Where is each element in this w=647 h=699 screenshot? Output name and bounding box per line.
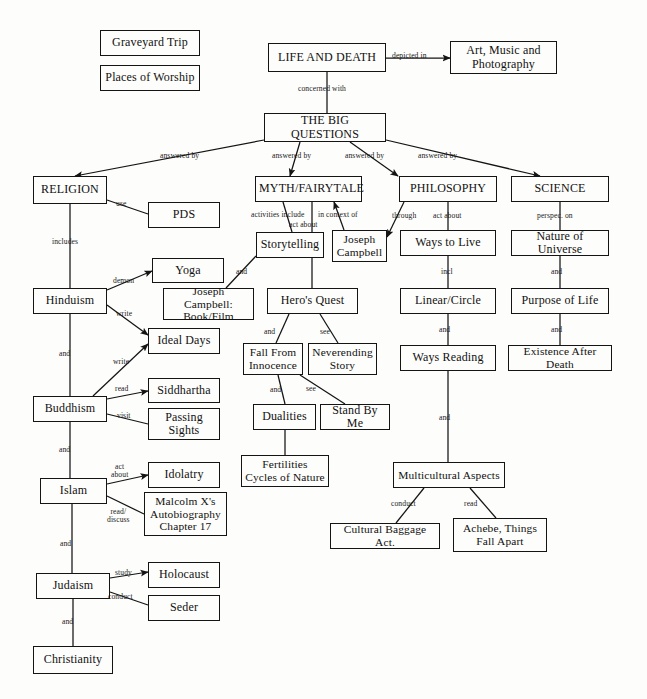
concept-node-label: Hinduism: [37, 294, 103, 307]
concept-node-multicultural_aspects[interactable]: Multicultural Aspects: [393, 462, 505, 488]
concept-node-label: Achebe, ThingsFall Apart: [457, 522, 543, 548]
concept-map-canvas: Graveyard TripPlaces of WorshipLIFE AND …: [0, 0, 647, 699]
concept-node-seder[interactable]: Seder: [148, 595, 220, 621]
edge-label-e25: through: [392, 212, 416, 220]
edge-label-e17: read/discuss: [107, 508, 130, 524]
concept-node-myth_fairytale[interactable]: MYTH/FAIRYTALE: [255, 176, 362, 202]
edge-label-e9: demon: [113, 277, 134, 285]
concept-node-label: Siddhartha: [152, 384, 216, 397]
concept-node-label: Fall FromInnocence: [247, 346, 299, 372]
concept-node-pds[interactable]: PDS: [148, 202, 220, 228]
concept-node-label: Joseph Campbell:Book/Film: [167, 285, 250, 323]
concept-node-label: Ways Reading: [404, 351, 492, 364]
concept-node-label: NeverendingStory: [312, 346, 373, 372]
concept-node-fall_from_innocence[interactable]: Fall FromInnocence: [243, 343, 303, 375]
concept-node-label: Nature of Universe: [515, 230, 605, 257]
concept-node-philosophy[interactable]: PHILOSOPHY: [399, 176, 497, 202]
edge-label-e20: conduct: [108, 593, 133, 601]
concept-node-label: Dualities: [257, 410, 312, 423]
concept-node-label: Purpose of Life: [515, 294, 605, 307]
concept-node-siddhartha[interactable]: Siddhartha: [148, 378, 220, 403]
concept-node-label: Places of Worship: [104, 71, 196, 84]
edge-label-e36: perspec. on: [537, 212, 573, 220]
concept-node-islam[interactable]: Islam: [40, 478, 107, 504]
edge-label-e10: write: [116, 310, 132, 318]
concept-node-linear_circle[interactable]: Linear/Circle: [400, 288, 496, 314]
concept-node-label: Art, Music andPhotography: [454, 44, 553, 71]
concept-node-label: PassingSights: [152, 411, 216, 438]
edge-label-e32: act about: [433, 212, 462, 220]
concept-node-life_and_death[interactable]: LIFE AND DEATH: [268, 43, 386, 72]
concept-node-label: SCIENCE: [515, 182, 605, 195]
concept-node-neverending_story[interactable]: NeverendingStory: [308, 343, 377, 375]
edge-label-e1: depicted in: [392, 52, 427, 60]
edge-label-e29: and: [270, 386, 281, 394]
concept-node-label: Existence After Death: [512, 345, 608, 371]
concept-node-places_worship[interactable]: Places of Worship: [100, 65, 200, 91]
concept-node-dualities[interactable]: Dualities: [253, 404, 316, 430]
concept-edge-e6: [386, 140, 540, 176]
edge-label-e18: and: [60, 540, 71, 548]
concept-node-ways_to_live[interactable]: Ways to Live: [400, 230, 496, 256]
concept-node-label: PHILOSOPHY: [403, 182, 493, 195]
concept-node-label: FertilitiesCycles of Nature: [245, 458, 325, 484]
concept-node-label: Judaism: [40, 579, 106, 592]
concept-node-stand_by_me[interactable]: Stand By Me: [320, 404, 390, 430]
concept-node-christianity[interactable]: Christianity: [33, 646, 113, 674]
edge-label-e26: and: [236, 268, 247, 276]
concept-node-label: Buddhism: [37, 402, 103, 415]
concept-node-label: Linear/Circle: [404, 294, 492, 307]
concept-node-art_music_photography[interactable]: Art, Music andPhotography: [450, 41, 557, 74]
edge-label-e34: and: [439, 326, 450, 334]
edge-label-e13: read: [115, 385, 128, 393]
concept-node-hinduism[interactable]: Hinduism: [33, 288, 107, 314]
edge-label-e35: and: [439, 414, 450, 422]
concept-node-label: PDS: [152, 208, 216, 221]
concept-node-buddhism[interactable]: Buddhism: [33, 396, 107, 422]
concept-node-label: Multicultural Aspects: [397, 469, 501, 482]
concept-node-existence_after_death[interactable]: Existence After Death: [508, 345, 612, 371]
concept-node-label: Storytelling: [260, 238, 320, 251]
concept-node-joseph_campbell[interactable]: JosephCampbell: [332, 230, 387, 262]
edge-label-e30: see: [306, 385, 316, 393]
concept-node-ideal_days[interactable]: Ideal Days: [148, 328, 220, 354]
concept-node-joseph_campbell_book[interactable]: Joseph Campbell:Book/Film: [163, 288, 254, 320]
concept-node-purpose_of_life[interactable]: Purpose of Life: [511, 288, 609, 314]
edge-label-e27: and: [264, 328, 275, 336]
edge-label-e22: activities include: [251, 211, 304, 219]
edge-label-e15: and: [59, 446, 70, 454]
concept-node-malcolm_x[interactable]: Malcolm X'sAutobiographyChapter 17: [144, 492, 227, 536]
concept-node-graveyard_trip[interactable]: Graveyard Trip: [100, 30, 200, 56]
edge-label-e39: conduct: [391, 500, 416, 508]
concept-node-holocaust[interactable]: Holocaust: [148, 562, 220, 588]
concept-edge-e27: [276, 314, 289, 343]
concept-node-label: JosephCampbell: [336, 233, 383, 259]
edge-label-e28: see: [320, 328, 330, 336]
concept-node-label: Idolatry: [152, 468, 216, 481]
concept-node-label: RELIGION: [37, 183, 103, 196]
concept-node-label: Islam: [44, 484, 103, 497]
concept-node-nature_of_universe[interactable]: Nature of Universe: [511, 230, 609, 256]
concept-node-label: Seder: [152, 601, 216, 614]
concept-node-science[interactable]: SCIENCE: [511, 176, 609, 202]
concept-node-cultural_baggage[interactable]: Cultural Baggage Act.: [330, 523, 440, 549]
concept-edge-e7: [107, 200, 148, 214]
concept-node-passing_sights[interactable]: PassingSights: [148, 408, 220, 440]
concept-node-yoga[interactable]: Yoga: [152, 258, 224, 283]
concept-node-label: Yoga: [156, 264, 220, 277]
concept-node-idolatry[interactable]: Idolatry: [148, 462, 220, 488]
concept-node-religion[interactable]: RELIGION: [33, 176, 107, 204]
concept-node-storytelling[interactable]: Storytelling: [256, 232, 324, 258]
concept-node-heros_quest[interactable]: Hero's Quest: [267, 288, 358, 314]
concept-node-label: Hero's Quest: [271, 294, 354, 307]
concept-node-achebe_things_fall_apart[interactable]: Achebe, ThingsFall Apart: [453, 518, 547, 552]
edge-label-e16: actabout: [111, 463, 128, 479]
edge-label-e24: act about: [289, 221, 318, 229]
concept-node-label: Malcolm X'sAutobiographyChapter 17: [148, 495, 223, 533]
concept-node-judaism[interactable]: Judaism: [36, 573, 110, 599]
concept-node-ways_reading[interactable]: Ways Reading: [400, 345, 496, 371]
concept-node-fertilities_cycles[interactable]: FertilitiesCycles of Nature: [241, 455, 329, 487]
edge-label-e6: answered by: [418, 152, 457, 160]
concept-node-the_big_questions[interactable]: THE BIG QUESTIONS: [264, 113, 386, 142]
edge-label-e40: read: [464, 500, 477, 508]
